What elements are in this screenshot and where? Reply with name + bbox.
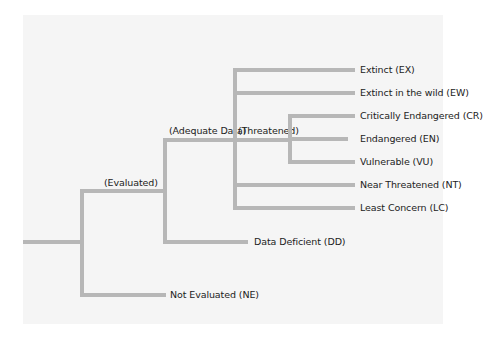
critically-endangered-label: Critically Endangered (CR): [360, 110, 483, 122]
data-deficient-connector: [163, 240, 248, 244]
extinct-label: Extinct (EX): [360, 64, 415, 76]
evaluated-connector: [80, 189, 167, 193]
root-connector: [23, 240, 84, 244]
near-threatened-label: Near Threatened (NT): [360, 179, 462, 191]
vulnerable-label: Vulnerable (VU): [360, 156, 433, 168]
evaluated-split-vertical: [163, 138, 167, 244]
extinct-connector: [233, 68, 355, 72]
least-concern-label: Least Concern (LC): [360, 202, 448, 214]
data-deficient-label: Data Deficient (DD): [254, 236, 345, 248]
threatened-connector: [233, 138, 291, 142]
endangered-connector: [288, 137, 348, 141]
not-evaluated-label: Not Evaluated (NE): [170, 289, 259, 301]
near-threatened-connector: [233, 183, 355, 187]
adequate-data-connector: [163, 138, 237, 142]
least-concern-connector: [233, 206, 355, 210]
critically-endangered-connector: [288, 114, 355, 118]
extinct-wild-connector: [233, 91, 355, 95]
extinct-wild-label: Extinct in the wild (EW): [360, 87, 469, 99]
vulnerable-connector: [288, 160, 355, 164]
endangered-label: Endangered (EN): [360, 133, 439, 145]
evaluated-label: (Evaluated): [104, 177, 158, 189]
not-evaluated-connector: [80, 293, 166, 297]
root-split-vertical: [80, 189, 84, 297]
